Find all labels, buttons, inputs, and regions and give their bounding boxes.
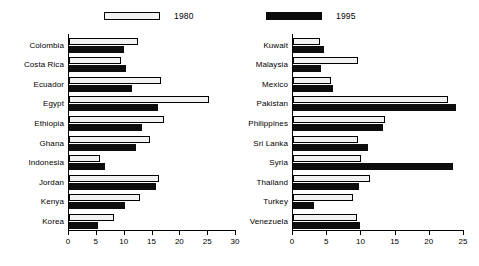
- bar-1980: [69, 136, 150, 143]
- category-label: Kenya: [41, 198, 64, 206]
- x-axis-tick: [68, 231, 69, 235]
- x-axis-tick: [152, 231, 153, 235]
- x-axis-tick: [360, 231, 361, 235]
- category-label: Sri Lanka: [253, 140, 288, 148]
- category-label: Mexico: [262, 81, 288, 89]
- x-axis-tick: [292, 231, 293, 235]
- bar-1980: [69, 57, 121, 64]
- category-label: Kuwait: [263, 42, 288, 50]
- category-label: Ghana: [39, 140, 64, 148]
- bar-1995: [69, 144, 136, 151]
- category-label: Indonesia: [28, 159, 64, 167]
- category-label: Egypt: [43, 100, 64, 108]
- legend-item-1995: 1995: [266, 12, 356, 21]
- x-axis-tick-label: 25: [203, 238, 212, 246]
- bar-1980: [293, 96, 448, 103]
- x-axis-tick-label: 20: [175, 238, 184, 246]
- bar-1980: [69, 77, 161, 84]
- category-label: Venezuela: [250, 218, 288, 226]
- x-axis-tick: [96, 231, 97, 235]
- bar-1980: [293, 155, 361, 162]
- plot-area-right: [292, 34, 464, 231]
- bar-1980: [69, 194, 140, 201]
- chart-panels: ColombiaCosta RicaEcuadorEgyptEthiopiaGh…: [0, 34, 479, 266]
- bar-1980: [69, 214, 114, 221]
- bar-1995: [69, 85, 132, 92]
- plot-area-left: [68, 34, 236, 231]
- bar-1980: [69, 155, 100, 162]
- x-axis-tick-label: 20: [424, 238, 433, 246]
- bar-1980: [69, 96, 209, 103]
- legend-label-1980: 1980: [174, 12, 194, 21]
- bar-1995: [293, 163, 453, 170]
- bar-1980: [69, 38, 138, 45]
- bar-1995: [69, 163, 105, 170]
- bar-1995: [293, 104, 456, 111]
- x-axis-tick-label: 5: [94, 238, 98, 246]
- x-axis-tick-label: 30: [231, 238, 240, 246]
- legend-item-1980: 1980: [104, 12, 194, 21]
- bar-1995: [293, 222, 360, 229]
- bar-1980: [293, 136, 358, 143]
- legend-label-1995: 1995: [336, 12, 356, 21]
- x-axis-tick-label: 15: [390, 238, 399, 246]
- bar-1980: [293, 116, 385, 123]
- bar-1995: [69, 65, 126, 72]
- x-axis-tick-label: 0: [66, 238, 70, 246]
- category-label: Colombia: [29, 42, 64, 50]
- chart-panel-right: KuwaitMalaysiaMexicoPakistanPhilippinesS…: [240, 34, 479, 266]
- category-label: Ecuador: [34, 81, 65, 89]
- bar-1980: [293, 214, 357, 221]
- bar-1995: [69, 202, 125, 209]
- bar-1980: [293, 57, 358, 64]
- bar-1980: [293, 194, 353, 201]
- category-label: Korea: [42, 218, 64, 226]
- category-label: Turkey: [263, 198, 288, 206]
- category-label: Syria: [269, 159, 288, 167]
- x-axis-tick: [429, 231, 430, 235]
- legend-swatch-1995: [266, 12, 322, 20]
- bar-1995: [69, 222, 98, 229]
- category-label: Costa Rica: [24, 61, 64, 69]
- chart-panel-left: ColombiaCosta RicaEcuadorEgyptEthiopiaGh…: [0, 34, 240, 266]
- category-label: Ethiopia: [34, 120, 64, 128]
- bar-1995: [293, 124, 383, 131]
- category-label: Pakistan: [257, 100, 288, 108]
- bar-1980: [69, 116, 164, 123]
- x-axis-tick-label: 10: [356, 238, 365, 246]
- bar-1995: [293, 202, 314, 209]
- bar-1995: [69, 183, 156, 190]
- bar-1995: [293, 46, 324, 53]
- x-axis-tick-label: 5: [324, 238, 328, 246]
- x-axis-tick: [463, 231, 464, 235]
- x-axis-tick: [179, 231, 180, 235]
- bar-1995: [293, 183, 359, 190]
- bar-1995: [293, 65, 321, 72]
- category-label: Thailand: [257, 179, 289, 187]
- bar-1995: [69, 46, 124, 53]
- x-axis-tick: [207, 231, 208, 235]
- category-label: Jordan: [39, 179, 64, 187]
- x-axis-tick: [395, 231, 396, 235]
- x-axis-tick: [124, 231, 125, 235]
- bar-1980: [293, 175, 370, 182]
- x-axis-tick: [326, 231, 327, 235]
- bar-1980: [293, 38, 320, 45]
- x-axis-tick-label: 0: [290, 238, 294, 246]
- category-label: Malaysia: [256, 61, 288, 69]
- bar-1995: [69, 124, 142, 131]
- bar-1995: [69, 104, 158, 111]
- legend-swatch-1980: [104, 12, 160, 20]
- bar-1995: [293, 144, 368, 151]
- bar-1980: [69, 175, 159, 182]
- x-axis-tick-label: 15: [147, 238, 156, 246]
- x-axis-tick-label: 10: [119, 238, 128, 246]
- chart-legend: 1980 1995: [0, 12, 479, 30]
- x-axis-tick: [235, 231, 236, 235]
- bar-1995: [293, 85, 333, 92]
- bar-1980: [293, 77, 331, 84]
- x-axis-tick-label: 25: [459, 238, 468, 246]
- category-label: Philippines: [248, 120, 288, 128]
